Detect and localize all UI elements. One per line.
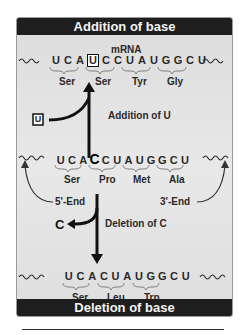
deletion-label: Deletion of C [105,218,167,229]
codon-label: Ser [95,76,111,87]
divider-line [22,329,224,330]
mrna-wave-left [19,59,39,63]
five-prime-arrow [25,166,53,202]
mutation-diagram-panel: Addition of base [16,17,233,317]
five-prime-label: 5'-End [55,196,85,207]
codon-label: Tyr [132,76,147,87]
codon-label: Gly [167,76,183,87]
added-base: U [33,114,43,125]
codon-label: Ser [64,174,80,185]
deletion-footer: Deletion of base [17,299,232,316]
three-prime-arrow [197,166,225,202]
deletion-sequence: UCACUAUGGCU [63,270,192,282]
deleted-base: C [55,217,64,232]
original-sequence: UCACCUAUGGCU [55,151,191,167]
target-base: C [89,151,100,167]
addition-label: Addition of U [108,110,171,121]
codon-label: Met [133,174,150,185]
codon-label: Ser [59,76,75,87]
codon-label: Pro [99,174,116,185]
inserted-base: U [87,54,99,67]
addition-sequence: UCAUCCUAUGGCU [50,54,208,67]
three-prime-label: 3'-End [160,196,190,207]
codon-label: Ala [169,174,185,185]
